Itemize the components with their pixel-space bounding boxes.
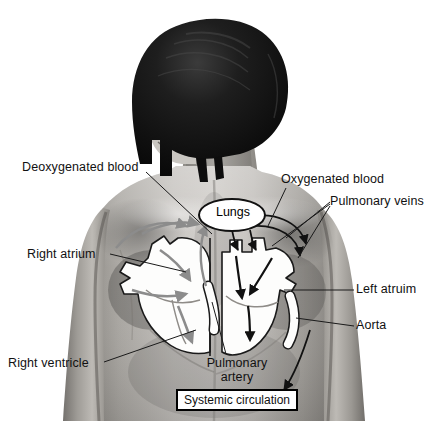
- circulation-diagram-figure: Deoxygenated blood Oxygenated blood Pulm…: [0, 0, 426, 421]
- label-pulmonary-veins: Pulmonary veins: [330, 194, 424, 208]
- label-oxygenated-blood: Oxygenated blood: [281, 172, 384, 186]
- label-pulmonary-artery: Pulmonary artery: [185, 356, 289, 384]
- leader-pulmonary-veins-2: [272, 204, 330, 246]
- label-right-atrium: Right atrium: [27, 247, 96, 261]
- label-aorta: Aorta: [356, 318, 386, 332]
- leader-aorta: [296, 318, 354, 326]
- label-right-ventricle: Right ventricle: [8, 356, 89, 370]
- systemic-circulation-box: Systemic circulation: [176, 389, 298, 411]
- label-pulmonary-artery-line1: Pulmonary: [207, 356, 268, 370]
- label-left-atrium: Left atruim: [356, 282, 416, 296]
- leader-pulmonary-veins-3: [298, 206, 330, 258]
- label-deoxygenated-blood: Deoxygenated blood: [22, 160, 138, 174]
- label-lungs: Lungs: [200, 205, 266, 219]
- label-systemic-circulation: Systemic circulation: [178, 391, 296, 409]
- label-pulmonary-artery-line2: artery: [221, 370, 254, 384]
